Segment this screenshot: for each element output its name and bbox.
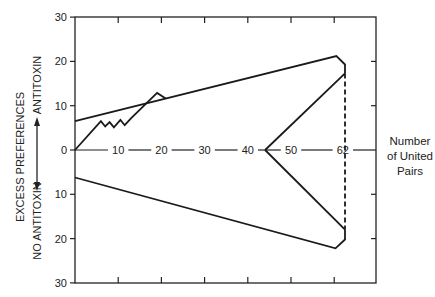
x-tick-label: 30 <box>198 144 210 156</box>
y-tick-label: 30 <box>55 11 67 23</box>
y-tick-label: 10 <box>55 188 67 200</box>
x-tick-label: 40 <box>242 144 254 156</box>
x-axis-title: Number of United Pairs <box>384 134 435 179</box>
y-tick-label: 0 <box>61 144 67 156</box>
series-line <box>265 73 345 150</box>
x-axis-title-line-1: Number <box>384 134 435 149</box>
x-axis-title-line-2: of United <box>384 149 435 164</box>
y-axis-negative-label: NO ANTITOXIN <box>31 182 43 259</box>
x-axis-title-line-3: Pairs <box>384 164 435 179</box>
y-axis-title: EXCESS PREFERENCES <box>14 92 26 222</box>
zero-axis: 102030405062 <box>75 144 376 156</box>
y-tick-label: 20 <box>55 233 67 245</box>
y-tick-label: 20 <box>55 55 67 67</box>
y-tick-label: 30 <box>55 277 67 289</box>
x-tick-label: 20 <box>155 144 167 156</box>
y-axis-positive-label: ANTITOXIN <box>31 56 43 115</box>
x-tick-label: 50 <box>285 144 297 156</box>
series-line <box>265 150 345 230</box>
chart: 3020100102030 102030405062 EXCESS PREFER… <box>0 0 435 297</box>
y-tick-label: 10 <box>55 100 67 112</box>
double-arrow-icon <box>34 117 40 191</box>
x-tick-label: 10 <box>112 144 124 156</box>
x-tick-label: 62 <box>337 144 349 156</box>
